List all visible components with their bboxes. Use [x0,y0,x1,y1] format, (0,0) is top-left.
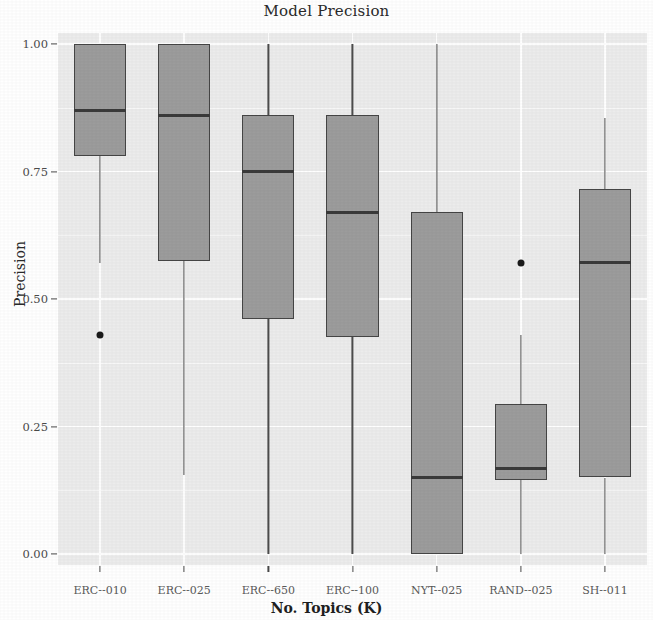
outlier-point[interactable] [517,260,524,267]
y-tick-label: 1.00 [2,37,48,51]
median-line [411,476,463,479]
x-tick-mark [268,566,269,572]
whisker-lower [604,478,605,555]
x-tick-label: ERC--100 [326,584,379,597]
y-tick-mark [51,43,57,44]
box-iqr-rect[interactable] [411,212,463,554]
whisker-lower [352,337,353,554]
boxplot-box[interactable] [74,33,126,565]
whisker-lower [520,480,521,554]
plot-panel [58,33,647,565]
box-iqr-rect[interactable] [326,115,378,337]
chart-figure: Model Precision 0.000.250.500.751.00 ERC… [0,0,653,620]
y-tick-label: 0.00 [2,547,48,561]
x-tick-mark [520,566,521,572]
boxplot-box[interactable] [579,33,631,565]
whisker-upper [604,118,605,189]
whisker-upper [436,44,437,212]
whisker-lower [268,319,269,554]
y-tick-mark [51,298,57,299]
boxplot-box[interactable] [411,33,463,565]
box-iqr-rect[interactable] [242,115,294,319]
boxplot-box[interactable] [158,33,210,565]
whisker-lower [99,156,100,263]
y-tick-mark [51,553,57,554]
x-tick-mark [184,566,185,572]
median-line [158,114,210,117]
box-iqr-rect[interactable] [579,189,631,477]
y-tick-label: 0.75 [2,165,48,179]
x-tick-label: NYT--025 [411,584,462,597]
whisker-upper [520,335,521,404]
whisker-upper [268,44,269,115]
x-tick-label: ERC--650 [242,584,295,597]
whisker-lower [184,261,185,475]
x-tick-label: ERC--010 [73,584,126,597]
x-axis-title: No. Topics (K) [0,600,653,616]
x-tick-mark [99,566,100,572]
chart-title: Model Precision [0,2,653,20]
whisker-upper [352,44,353,115]
median-line [495,467,547,470]
boxplot-box[interactable] [495,33,547,565]
median-line [74,109,126,112]
y-tick-mark [51,171,57,172]
x-tick-label: RAND--025 [489,584,552,597]
x-tick-label: ERC--025 [158,584,211,597]
median-line [242,170,294,173]
x-tick-mark [604,566,605,572]
boxplot-box[interactable] [242,33,294,565]
boxplot-box[interactable] [326,33,378,565]
median-line [326,211,378,214]
outlier-point[interactable] [97,331,104,338]
y-axis-title: Precision [12,194,28,354]
x-tick-label: SH--011 [582,584,628,597]
median-line [579,261,631,264]
y-tick-label: 0.25 [2,420,48,434]
box-iqr-rect[interactable] [74,44,126,156]
box-iqr-rect[interactable] [158,44,210,261]
x-tick-mark [352,566,353,572]
x-tick-mark [436,566,437,572]
y-tick-mark [51,426,57,427]
